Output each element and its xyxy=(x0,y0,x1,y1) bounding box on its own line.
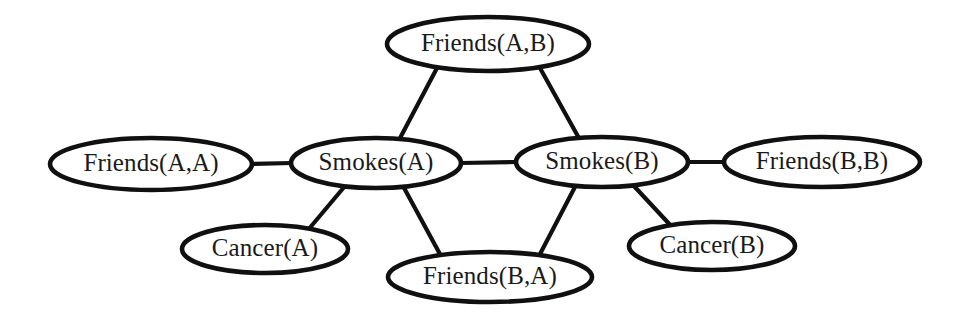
node-label-cancer-b: Cancer(B) xyxy=(659,231,764,259)
edge-friendsab-smokesb xyxy=(540,68,580,140)
edge-smokesa-smokesb xyxy=(461,162,516,163)
edge-friendsaa-smokesa xyxy=(252,163,292,164)
edge-smokesb-friendsba xyxy=(539,185,576,256)
node-label-friends-ab: Friends(A,B) xyxy=(421,29,555,57)
node-smokes-b[interactable]: Smokes(B) xyxy=(516,137,688,187)
node-cancer-a[interactable]: Cancer(A) xyxy=(182,225,348,273)
node-label-friends-ba: Friends(B,A) xyxy=(423,262,557,290)
node-label-friends-aa: Friends(A,A) xyxy=(83,149,218,177)
node-friends-bb[interactable]: Friends(B,B) xyxy=(724,137,920,187)
node-friends-aa[interactable]: Friends(A,A) xyxy=(50,138,252,190)
markov-network-diagram: Friends(A,B)Friends(A,A)Smokes(A)Smokes(… xyxy=(0,0,966,320)
node-friends-ab[interactable]: Friends(A,B) xyxy=(387,17,589,71)
node-label-friends-bb: Friends(B,B) xyxy=(756,147,888,175)
edge-friendsab-smokesa xyxy=(399,68,437,140)
graph-canvas: Friends(A,B)Friends(A,A)Smokes(A)Smokes(… xyxy=(0,0,966,320)
edge-smokesb-cancerb xyxy=(633,185,673,228)
node-cancer-b[interactable]: Cancer(B) xyxy=(629,222,795,270)
node-smokes-a[interactable]: Smokes(A) xyxy=(291,138,461,188)
edge-smokesa-cancera xyxy=(308,186,345,230)
node-label-smokes-a: Smokes(A) xyxy=(319,148,434,176)
edge-smokesa-friendsba xyxy=(403,186,441,256)
nodes-layer: Friends(A,B)Friends(A,A)Smokes(A)Smokes(… xyxy=(50,17,920,302)
node-label-smokes-b: Smokes(B) xyxy=(545,147,658,175)
node-friends-ba[interactable]: Friends(B,A) xyxy=(388,252,592,302)
node-label-cancer-a: Cancer(A) xyxy=(212,234,318,262)
